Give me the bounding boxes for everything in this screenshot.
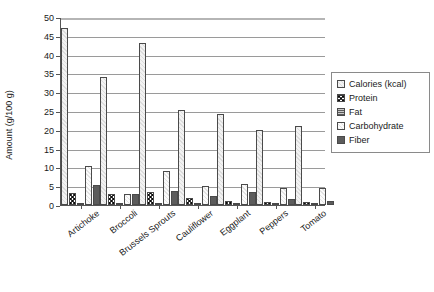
y-tick-mark — [56, 206, 60, 207]
bar — [85, 166, 92, 205]
y-tick-mark — [56, 18, 60, 19]
y-tick-label: 10 — [28, 163, 54, 173]
bar — [147, 192, 154, 205]
y-tick-mark — [56, 112, 60, 113]
bar — [264, 202, 271, 205]
y-tick-mark — [56, 187, 60, 188]
bar — [186, 198, 193, 205]
bar — [319, 188, 326, 205]
bar-chart: Amount (g/100 g) 05101520253035404550 Ar… — [0, 0, 434, 292]
bar — [217, 114, 224, 205]
bar — [108, 194, 115, 205]
plot-area — [60, 18, 325, 206]
bar — [69, 193, 76, 205]
bar-group — [217, 18, 256, 205]
x-tick-label: Broccoli — [108, 208, 139, 236]
legend-label: Protein — [349, 93, 378, 103]
bar-group — [295, 18, 334, 205]
y-tick-mark — [56, 56, 60, 57]
legend-swatch-icon — [337, 108, 345, 116]
bar — [233, 203, 240, 205]
legend-item: Calories (kcal) — [337, 77, 424, 91]
bar — [288, 199, 295, 205]
bar — [249, 192, 256, 205]
legend-swatch-icon — [337, 80, 345, 88]
x-tick-label: Eggplant — [218, 208, 252, 238]
x-tick-label: Artichoke — [65, 208, 101, 239]
bar — [194, 203, 201, 205]
y-tick-label: 35 — [28, 69, 54, 79]
bar-group — [100, 18, 139, 205]
bar — [77, 203, 84, 205]
y-tick-label: 45 — [28, 32, 54, 42]
legend-swatch-icon — [337, 94, 345, 102]
y-axis-title: Amount (g/100 g) — [2, 60, 16, 190]
bar — [202, 186, 209, 205]
bar-group — [139, 18, 178, 205]
bar — [163, 171, 170, 205]
y-tick-label: 5 — [28, 182, 54, 192]
bar — [256, 130, 263, 205]
y-axis-title-label: Amount (g/100 g) — [4, 90, 14, 160]
y-tick-mark — [56, 37, 60, 38]
bar — [61, 28, 68, 205]
y-tick-label: 20 — [28, 126, 54, 136]
y-tick-label: 50 — [28, 13, 54, 23]
x-tick-label: Tomato — [299, 208, 328, 234]
bar — [280, 188, 287, 205]
bar-group — [178, 18, 217, 205]
bar-group — [256, 18, 295, 205]
bar — [171, 191, 178, 205]
legend-label: Fiber — [349, 135, 370, 145]
legend-item: Carbohydrate — [337, 119, 424, 133]
bar — [178, 110, 185, 205]
bar — [225, 201, 232, 205]
legend-item: Fiber — [337, 133, 424, 147]
legend-item: Protein — [337, 91, 424, 105]
bar — [124, 194, 131, 205]
legend-swatch-icon — [337, 122, 345, 130]
bar-group — [61, 18, 100, 205]
bar — [311, 203, 318, 205]
y-tick-label: 0 — [28, 201, 54, 211]
y-tick-mark — [56, 74, 60, 75]
bar — [155, 203, 162, 205]
legend-label: Fat — [349, 107, 362, 117]
bar — [327, 201, 334, 206]
bar — [100, 77, 107, 205]
bar — [210, 196, 217, 205]
bar — [132, 194, 139, 205]
bar — [116, 203, 123, 205]
bar — [139, 43, 146, 205]
legend-label: Calories (kcal) — [349, 79, 407, 89]
y-tick-mark — [56, 150, 60, 151]
y-tick-label: 15 — [28, 145, 54, 155]
y-tick-mark — [56, 168, 60, 169]
bar — [303, 202, 310, 205]
y-tick-label: 25 — [28, 107, 54, 117]
chart-legend: Calories (kcal)ProteinFatCarbohydrateFib… — [331, 72, 430, 153]
y-tick-label: 40 — [28, 51, 54, 61]
x-tick-label: Cauliflower — [173, 208, 214, 243]
legend-item: Fat — [337, 105, 424, 119]
bar-groups — [61, 18, 325, 205]
legend-swatch-icon — [337, 136, 345, 144]
y-tick-mark — [56, 93, 60, 94]
bar — [241, 184, 248, 205]
bar — [272, 203, 279, 205]
bar — [93, 185, 100, 205]
bar — [295, 126, 302, 205]
x-tick-label: Peppers — [258, 208, 291, 237]
y-tick-label: 30 — [28, 88, 54, 98]
legend-label: Carbohydrate — [349, 121, 404, 131]
x-axis-category-labels: ArtichokeBroccoliBrussels SproutsCaulifl… — [60, 208, 325, 282]
y-tick-mark — [56, 131, 60, 132]
